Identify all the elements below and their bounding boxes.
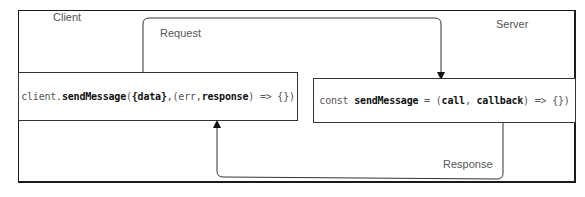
client-code-prefix: client. [21, 91, 62, 102]
server-arg-callback: callback [477, 95, 524, 106]
request-label: Request [160, 27, 201, 39]
client-arg-response: response [202, 91, 249, 102]
server-code-eq: = ( [418, 95, 441, 106]
server-code: const sendMessage = (call, callback) => … [319, 95, 569, 106]
server-node: const sendMessage = (call, callback) => … [313, 78, 576, 123]
server-arg-call: call [442, 95, 465, 106]
server-code-keyword: const [319, 95, 354, 106]
client-node: client.sendMessage({data},(err,response)… [18, 72, 298, 121]
client-code-suffix: ) => {}) [248, 91, 295, 102]
server-code-sep: , [465, 95, 477, 106]
response-label: Response [443, 158, 493, 170]
server-region-label: Server [496, 18, 528, 30]
server-code-suffix: ) => {}) [523, 95, 570, 106]
client-code: client.sendMessage({data},(err,response)… [21, 91, 295, 102]
server-method-name: sendMessage [354, 95, 418, 106]
client-arg-data: {data} [132, 91, 167, 102]
client-code-sep: ,(err, [167, 91, 202, 102]
client-region-label: Client [53, 11, 81, 23]
client-method-name: sendMessage [62, 91, 126, 102]
